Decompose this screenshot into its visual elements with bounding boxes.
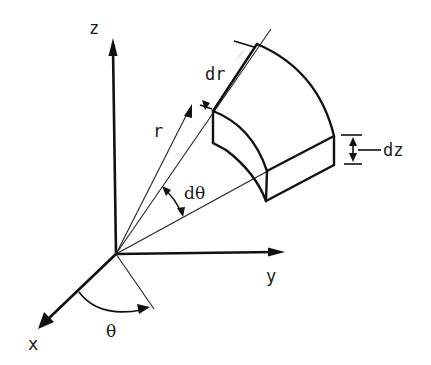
- z-axis-arrowhead-icon: [109, 38, 118, 56]
- y-axis: [116, 248, 285, 257]
- y-axis-label: y: [266, 266, 276, 286]
- dz-dimension: [341, 135, 381, 164]
- dz-down-arrowhead-icon: [349, 153, 357, 162]
- theta-label: θ: [106, 321, 116, 341]
- dr-label: dr: [205, 64, 225, 84]
- dtheta-indicator: [162, 186, 185, 217]
- dtheta-label: dθ: [184, 183, 205, 203]
- theta-arrowhead-icon: [137, 304, 150, 314]
- volume-element: [213, 44, 334, 201]
- dz-label: dz: [383, 140, 403, 160]
- y-axis-arrowhead-icon: [268, 248, 285, 257]
- z-axis-label: z: [89, 18, 99, 38]
- dr-outer-arrowhead-icon: [236, 47, 246, 61]
- x-axis: [38, 254, 116, 329]
- theta-indicator: [79, 292, 150, 314]
- cylindrical-volume-element-diagram: z y x r dr dz dθ θ: [0, 0, 431, 365]
- r-label: r: [153, 121, 163, 141]
- diagram-canvas: z y x r dr dz dθ θ: [0, 0, 431, 365]
- dtheta-arrowhead-bottom-icon: [177, 207, 185, 217]
- r-vector-arrowhead-icon: [184, 104, 192, 118]
- x-axis-label: x: [28, 334, 38, 354]
- z-axis: [109, 38, 118, 254]
- dz-up-arrowhead-icon: [349, 137, 357, 146]
